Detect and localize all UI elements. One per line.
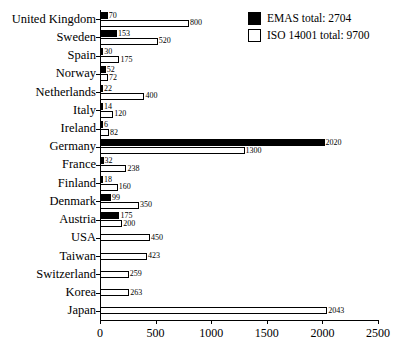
category-label-sweden: Sweden — [0, 31, 100, 44]
category-label-germany: Germany — [0, 140, 100, 153]
x-axis-tick-label: 500 — [147, 327, 165, 339]
x-axis-tick-label: 1500 — [255, 327, 279, 339]
chart-row: Taiwan423 — [100, 247, 378, 265]
plot-area: United Kingdom70800Sweden153520Spain3017… — [100, 10, 378, 320]
bar-value-label: 2043 — [328, 307, 344, 315]
bar-value-label: 259 — [130, 270, 142, 278]
bar-emas-ireland: 6 — [100, 121, 103, 128]
bar-value-label: 70 — [109, 12, 117, 20]
bar-iso-finland: 160 — [100, 184, 118, 191]
bar-iso-sweden: 520 — [100, 38, 158, 45]
bar-value-label: 99 — [112, 194, 120, 202]
x-axis-tick-label: 0 — [97, 327, 103, 339]
bar-iso-denmark: 350 — [100, 202, 139, 209]
chart-row: Italy14120 — [100, 101, 378, 119]
category-label-finland: Finland — [0, 177, 100, 190]
bar-value-label: 153 — [118, 30, 130, 38]
bar-iso-usa: 450 — [100, 234, 150, 241]
bar-iso-netherlands: 400 — [100, 93, 144, 100]
x-axis-tick — [156, 320, 157, 324]
category-label-norway: Norway — [0, 67, 100, 80]
chart-legend: EMAS total: 2704 ISO 14001 total: 9700 — [248, 10, 370, 44]
bar-emas-spain: 30 — [100, 48, 103, 55]
bar-value-label: 30 — [104, 48, 112, 56]
category-label-japan: Japan — [0, 304, 100, 317]
bar-emas-sweden: 153 — [100, 30, 117, 37]
category-label-switzerland: Switzerland — [0, 268, 100, 281]
bar-value-label: 82 — [110, 129, 118, 137]
bar-emas-italy: 14 — [100, 103, 103, 110]
chart-row: Austria175200 — [100, 211, 378, 229]
bar-emas-finland: 18 — [100, 176, 103, 183]
legend-item-emas: EMAS total: 2704 — [248, 10, 370, 27]
bar-value-label: 32 — [105, 157, 113, 165]
category-label-netherlands: Netherlands — [0, 86, 100, 99]
bar-value-label: 1300 — [246, 147, 262, 155]
x-axis-tick — [378, 320, 379, 324]
category-label-korea: Korea — [0, 286, 100, 299]
x-axis-tick-label: 2500 — [366, 327, 390, 339]
bar-emas-denmark: 99 — [100, 194, 111, 201]
legend-label-iso: ISO 14001 total: 9700 — [267, 30, 370, 42]
x-axis-tick — [100, 320, 101, 324]
legend-swatch-emas-icon — [248, 12, 261, 25]
x-axis-tick — [267, 320, 268, 324]
bar-emas-norway: 52 — [100, 66, 106, 73]
bar-iso-ireland: 82 — [100, 129, 109, 136]
bar-emas-france: 32 — [100, 157, 104, 164]
bar-value-label: 400 — [145, 92, 157, 100]
bar-value-label: 450 — [151, 234, 163, 242]
legend-item-iso: ISO 14001 total: 9700 — [248, 27, 370, 44]
bar-iso-france: 238 — [100, 165, 126, 172]
chart-row: Spain30175 — [100, 46, 378, 64]
chart-row: Germany20201300 — [100, 138, 378, 156]
x-axis-line — [100, 320, 379, 321]
bar-iso-italy: 120 — [100, 111, 113, 118]
bar-value-label: 800 — [190, 19, 202, 27]
bar-iso-united-kingdom: 800 — [100, 20, 189, 27]
bar-iso-taiwan: 423 — [100, 253, 147, 260]
chart-row: France32238 — [100, 156, 378, 174]
category-label-usa: USA — [0, 231, 100, 244]
bar-value-label: 18 — [104, 176, 112, 184]
bar-iso-japan: 2043 — [100, 307, 327, 314]
bar-iso-austria: 200 — [100, 220, 122, 227]
x-axis-tick — [322, 320, 323, 324]
bar-iso-germany: 1300 — [100, 147, 245, 154]
chart-row: Korea263 — [100, 284, 378, 302]
bar-value-label: 175 — [120, 56, 132, 64]
legend-label-emas: EMAS total: 2704 — [267, 13, 351, 25]
x-axis-tick — [211, 320, 212, 324]
bar-value-label: 200 — [123, 220, 135, 228]
legend-swatch-iso-icon — [248, 29, 261, 42]
category-label-denmark: Denmark — [0, 195, 100, 208]
category-label-austria: Austria — [0, 213, 100, 226]
category-label-united-kingdom: United Kingdom — [0, 13, 100, 26]
chart-row: Switzerland259 — [100, 265, 378, 283]
bar-value-label: 14 — [104, 103, 112, 111]
bar-value-label: 6 — [104, 121, 108, 129]
category-label-spain: Spain — [0, 49, 100, 62]
bar-iso-korea: 263 — [100, 289, 129, 296]
category-label-france: France — [0, 158, 100, 171]
bar-value-label: 263 — [130, 289, 142, 297]
bar-iso-spain: 175 — [100, 56, 119, 63]
bar-value-label: 72 — [109, 74, 117, 82]
category-label-italy: Italy — [0, 104, 100, 117]
chart-row: Norway5272 — [100, 65, 378, 83]
x-axis-tick-label: 2000 — [310, 327, 334, 339]
bar-value-label: 423 — [148, 252, 160, 260]
bar-emas-united-kingdom: 70 — [100, 12, 108, 19]
chart-row: Ireland682 — [100, 119, 378, 137]
bar-chart: United Kingdom70800Sweden153520Spain3017… — [0, 0, 408, 358]
bar-iso-switzerland: 259 — [100, 271, 129, 278]
chart-row: Netherlands22400 — [100, 83, 378, 101]
bar-emas-netherlands: 22 — [100, 85, 103, 92]
bar-emas-austria: 175 — [100, 212, 119, 219]
chart-row: Japan2043 — [100, 302, 378, 320]
bar-value-label: 350 — [140, 201, 152, 209]
category-label-ireland: Ireland — [0, 122, 100, 135]
chart-row: Finland18160 — [100, 174, 378, 192]
bar-value-label: 160 — [119, 183, 131, 191]
bar-value-label: 2020 — [326, 139, 342, 147]
